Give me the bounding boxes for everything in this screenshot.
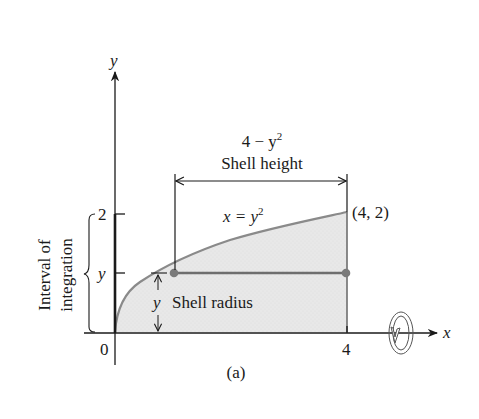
- shell-left-dot: [170, 269, 179, 278]
- interval-line-1: Interval of: [35, 239, 54, 311]
- interval-line-2: integration: [57, 238, 76, 312]
- origin-label: 0: [100, 340, 109, 359]
- figure-caption: (a): [227, 363, 246, 382]
- shell-height-label: Shell height: [221, 154, 303, 173]
- y-tick-label-y: y: [96, 264, 106, 283]
- interval-brace: [84, 214, 95, 332]
- shell-height-formula: 4 − y2: [242, 130, 283, 151]
- y-axis-label: y: [108, 51, 118, 70]
- interval-label: Interval of integration: [35, 238, 76, 312]
- y-tick-label-2: 2: [98, 205, 107, 224]
- x-tick-label-4: 4: [342, 340, 351, 359]
- shell-radius-label: Shell radius: [172, 293, 253, 312]
- shell-radius-symbol: y: [151, 293, 161, 312]
- point-label: (4, 2): [352, 203, 389, 222]
- shell-method-diagram: 2 y 0 4 y x Interval of integration 4 − …: [0, 0, 479, 419]
- curve-equation: x = y2: [222, 205, 264, 226]
- x-axis-label: x: [442, 323, 451, 342]
- shell-right-dot: [342, 269, 351, 278]
